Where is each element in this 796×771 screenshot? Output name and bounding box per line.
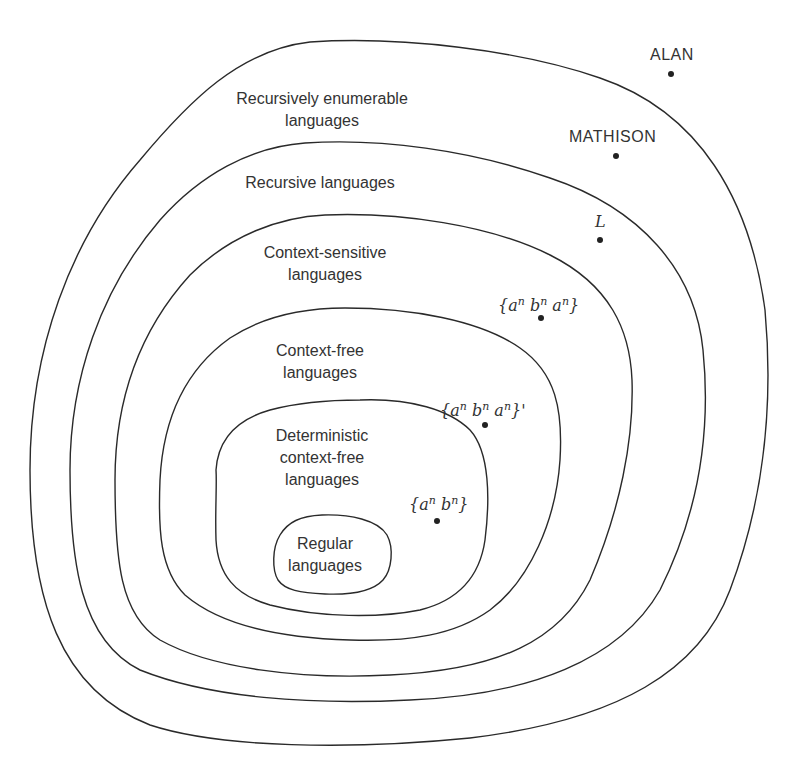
- label-line: languages: [285, 555, 365, 577]
- label-recursively-enumerable: Recursively enumerable languages: [222, 88, 422, 132]
- set-boundary-recursive: [70, 142, 705, 702]
- label-line: languages: [262, 469, 382, 491]
- label-line: Recursively enumerable: [222, 88, 422, 110]
- label-line: context-free: [262, 447, 382, 469]
- point-label-anbnan-complement: {an bn an}': [440, 400, 526, 420]
- point-dot-anbn: [434, 518, 440, 524]
- label-line: Regular: [285, 533, 365, 555]
- brace: {: [498, 296, 508, 315]
- exp: n: [540, 295, 547, 308]
- sym: b: [530, 296, 540, 315]
- sym: b: [472, 401, 482, 420]
- sym: a: [450, 401, 460, 420]
- brace: }: [511, 401, 521, 420]
- brace: {: [409, 495, 419, 514]
- exp: n: [460, 400, 467, 413]
- sym: a: [508, 296, 518, 315]
- label-context-sensitive: Context-sensitive languages: [250, 242, 400, 286]
- exp: n: [482, 400, 489, 413]
- point-label-L: L: [595, 212, 606, 231]
- point-dot-alan: [668, 71, 674, 77]
- label-line: languages: [250, 264, 400, 286]
- point-label-mathison: MATHISON: [569, 126, 656, 148]
- sym: b: [441, 495, 451, 514]
- brace: {: [440, 401, 450, 420]
- brace: }: [458, 495, 468, 514]
- brace: }: [569, 296, 579, 315]
- label-line: Context-free: [265, 340, 375, 362]
- prime: ': [521, 401, 525, 420]
- exp: n: [562, 295, 569, 308]
- label-line: languages: [222, 110, 422, 132]
- point-dot-mathison: [613, 153, 619, 159]
- label-context-free: Context-free languages: [265, 340, 375, 384]
- exp: n: [429, 494, 436, 507]
- label-line: Recursive languages: [230, 172, 410, 194]
- point-dot-anbnan-complement: [482, 422, 488, 428]
- exp: n: [518, 295, 525, 308]
- sym: a: [494, 401, 504, 420]
- label-line: Context-sensitive: [250, 242, 400, 264]
- point-label-anbnan: {an bn an}: [498, 295, 579, 315]
- point-dot-L: [597, 237, 603, 243]
- point-label-alan: ALAN: [650, 44, 694, 66]
- label-line: Deterministic: [262, 425, 382, 447]
- label-deterministic-context-free: Deterministic context-free languages: [262, 425, 382, 491]
- label-recursive: Recursive languages: [230, 172, 410, 194]
- point-label-anbn: {an bn}: [409, 494, 468, 514]
- point-dot-anbnan: [538, 315, 544, 321]
- exp: n: [504, 400, 511, 413]
- sym: a: [552, 296, 562, 315]
- sym: a: [419, 495, 429, 514]
- label-line: languages: [265, 362, 375, 384]
- label-regular: Regular languages: [285, 533, 365, 577]
